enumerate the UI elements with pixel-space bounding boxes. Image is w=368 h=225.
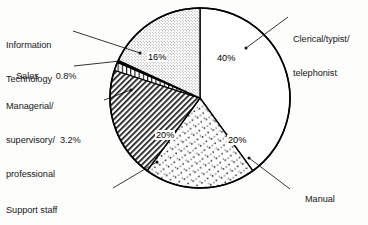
value-support-staff: 20% <box>155 130 175 140</box>
leader-sales <box>74 61 120 66</box>
leader-dot-manual <box>248 157 251 160</box>
label-manual: Manual <box>295 183 335 217</box>
leader-dot-support-staff <box>156 161 159 164</box>
leader-dot-clerical <box>245 47 248 50</box>
label-managerial-line2: supervisory/ <box>6 135 55 145</box>
leader-dot-managerial <box>130 89 133 92</box>
label-clerical-line1: Clerical/typist/ <box>293 34 349 45</box>
label-managerial-line3: professional <box>6 169 81 180</box>
label-information-technology-line1: Information <box>6 40 52 51</box>
value-information-technology: 16% <box>147 52 167 62</box>
label-managerial-percent: 3.2% <box>60 135 81 145</box>
label-managerial-line2-row: supervisory/3.2% <box>6 135 81 146</box>
label-support-staff-line1: Support staff <box>6 205 122 216</box>
value-clerical: 40% <box>216 53 236 63</box>
pie-chart-figure: Information Technology Sales0.8% Manager… <box>0 0 368 225</box>
leader-manual <box>249 158 290 189</box>
leader-dot-information-technology <box>139 52 142 55</box>
label-managerial-line1: Managerial/ <box>6 101 81 112</box>
label-clerical: Clerical/typist/ telephonist <box>293 11 349 102</box>
label-clerical-line2: telephonist <box>293 68 349 79</box>
label-support-staff: Support staff (cleaners/office messenger… <box>6 182 122 225</box>
value-manual: 20% <box>227 135 247 145</box>
label-manual-text: Manual <box>305 194 335 204</box>
